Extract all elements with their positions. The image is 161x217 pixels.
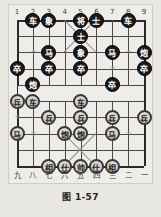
file-line-4-upper (65, 20, 66, 85)
black-advisor[interactable]: 士 (89, 13, 104, 28)
red-pawn[interactable]: 兵 (10, 94, 25, 109)
xiangqi-board[interactable]: 车象将士车士马象马炮卒卒卒卒炮卒兵车车兵兵兵兵马炮炮马相仕帅仕相 (17, 20, 144, 166)
figure-caption: 图 1-57 (0, 190, 161, 203)
file-label-bottom-9: 一 (137, 169, 151, 180)
red-chariot[interactable]: 车 (73, 94, 88, 109)
file-label-top-9: 9 (137, 8, 151, 16)
red-cannon[interactable]: 炮 (73, 126, 88, 141)
file-label-bottom-6: 四 (89, 169, 103, 180)
file-label-bottom-3: 七 (42, 169, 56, 180)
black-pawn[interactable]: 卒 (41, 61, 56, 76)
file-label-bottom-2: 八 (26, 169, 40, 180)
black-horse[interactable]: 马 (41, 45, 56, 60)
file-label-bottom-8: 二 (121, 169, 135, 180)
black-pawn[interactable]: 卒 (10, 61, 25, 76)
file-label-top-7: 7 (105, 8, 119, 16)
red-chariot[interactable]: 车 (25, 94, 40, 109)
black-chariot[interactable]: 车 (25, 13, 40, 28)
black-elephant[interactable]: 象 (73, 45, 88, 60)
red-horse[interactable]: 马 (105, 126, 120, 141)
xiangqi-figure: 123456789 车象将士车士马象马炮卒卒卒卒炮卒兵车车兵兵兵兵马炮炮马相仕帅… (0, 0, 161, 217)
star-point (15, 115, 20, 120)
file-label-top-1: 1 (10, 8, 24, 16)
file-label-bottom-1: 九 (10, 169, 24, 180)
black-advisor[interactable]: 士 (73, 29, 88, 44)
file-label-top-4: 4 (58, 8, 72, 16)
file-line-6-lower (96, 101, 97, 166)
file-label-bottom-5: 五 (74, 169, 88, 180)
red-pawn[interactable]: 兵 (137, 110, 152, 125)
file-label-bottom-7: 三 (105, 169, 119, 180)
star-point (126, 131, 131, 136)
black-pawn[interactable]: 卒 (137, 61, 152, 76)
black-pawn[interactable]: 卒 (73, 61, 88, 76)
file-line-9 (144, 20, 146, 166)
black-horse[interactable]: 马 (105, 45, 120, 60)
red-pawn[interactable]: 兵 (73, 110, 88, 125)
red-pawn[interactable]: 兵 (105, 110, 120, 125)
red-pawn[interactable]: 兵 (41, 110, 56, 125)
star-point (30, 131, 35, 136)
star-point (30, 50, 35, 55)
file-label-bottom-4: 六 (58, 169, 72, 180)
black-chariot[interactable]: 车 (121, 13, 136, 28)
red-horse[interactable]: 马 (10, 126, 25, 141)
black-cannon[interactable]: 炮 (137, 45, 152, 60)
star-point (110, 66, 115, 71)
black-elephant[interactable]: 象 (41, 13, 56, 28)
star-point (126, 50, 131, 55)
black-general[interactable]: 将 (73, 13, 88, 28)
